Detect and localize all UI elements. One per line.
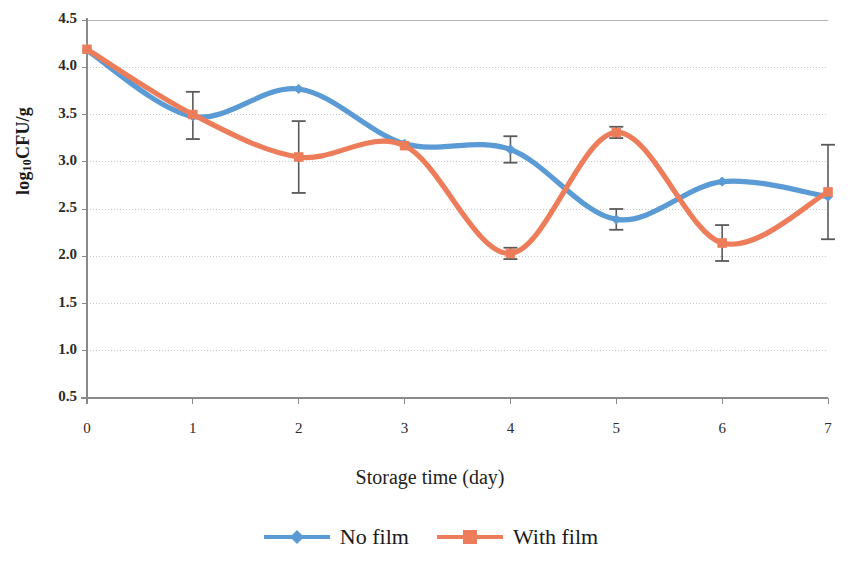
x-axis-title: Storage time (day) <box>0 466 860 489</box>
legend-label-with-film: With film <box>513 524 598 550</box>
x-tick-label-0: 0 <box>72 420 102 437</box>
chart-figure: log10CFU/g 0.51.01.52.02.53.03.54.04.5 0… <box>0 0 860 571</box>
y-tick-label-2.5: 2.5 <box>25 199 77 216</box>
legend-item-no-film[interactable]: No film <box>262 524 409 550</box>
y-tick-label-3.5: 3.5 <box>25 105 77 122</box>
y-tick-label-1.0: 1.0 <box>25 341 77 358</box>
data-point-with-film-3[interactable] <box>400 141 409 150</box>
series-line-no-film <box>87 50 828 220</box>
legend-label-no-film: No film <box>340 524 409 550</box>
x-tick-label-6: 6 <box>707 420 737 437</box>
series-no-film <box>82 46 832 224</box>
data-point-with-film-7[interactable] <box>824 188 833 197</box>
data-point-with-film-4[interactable] <box>506 249 515 257</box>
y-tick-label-3.0: 3.0 <box>25 152 77 169</box>
y-tick-label-4.5: 4.5 <box>25 10 77 27</box>
y-tick-label-1.5: 1.5 <box>25 294 77 311</box>
y-tick-label-0.5: 0.5 <box>25 388 77 405</box>
x-tick-label-7: 7 <box>813 420 843 437</box>
data-point-with-film-2[interactable] <box>294 153 303 162</box>
x-tick-label-5: 5 <box>601 420 631 437</box>
data-point-with-film-6[interactable] <box>718 239 727 248</box>
x-tick-label-4: 4 <box>495 420 525 437</box>
chart-legend: No film With film <box>0 524 860 550</box>
data-point-with-film-1[interactable] <box>189 110 198 119</box>
data-point-no-film-2[interactable] <box>294 84 303 93</box>
data-point-with-film-5[interactable] <box>612 128 621 137</box>
data-point-no-film-6[interactable] <box>718 177 727 186</box>
x-tick-label-1: 1 <box>178 420 208 437</box>
error-bars <box>186 92 835 261</box>
axis-lines <box>81 18 828 404</box>
y-tick-label-2.0: 2.0 <box>25 246 77 263</box>
x-tick-label-3: 3 <box>390 420 420 437</box>
data-point-with-film-0[interactable] <box>83 45 92 54</box>
x-tick-label-2: 2 <box>284 420 314 437</box>
legend-item-with-film[interactable]: With film <box>435 524 598 550</box>
legend-swatch-no-film-diamond-icon <box>262 526 332 548</box>
legend-swatch-with-film-square-icon <box>435 526 505 548</box>
series-line-with-film <box>87 49 828 253</box>
y-tick-label-4.0: 4.0 <box>25 57 77 74</box>
